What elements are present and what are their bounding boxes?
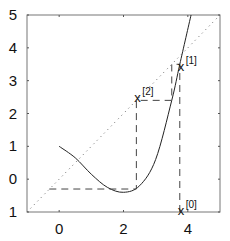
iterate-label: x[2] [134,86,153,105]
iterate-label: x[0] [178,199,197,218]
svg-text:x: x [134,90,141,105]
x-tick-label: 4 [184,220,192,237]
y-tick-label: 0 [9,170,17,187]
x-tick-label: 2 [119,220,127,237]
svg-text:[1]: [1] [186,55,197,66]
point-annotations: x[0]x[1]x[2] [134,55,197,218]
svg-text:[0]: [0] [186,199,197,210]
identity-line [27,15,220,212]
axis-ticks [27,15,220,212]
y-tick-label: 1 [9,137,17,154]
cobweb-plot: 024 1012345 x[0]x[1]x[2] [0,0,230,241]
y-tick-label: 5 [9,6,17,23]
cobweb-path [48,64,180,212]
svg-text:[2]: [2] [142,86,153,97]
x-tick-labels: 024 [55,220,192,237]
y-tick-label: 4 [9,39,17,56]
plot-area-border [27,15,220,212]
y-tick-label: 2 [9,105,17,122]
y-tick-label: 3 [9,72,17,89]
y-tick-labels: 1012345 [9,6,17,220]
y-tick-label: 1 [9,203,17,220]
axes-frame [27,15,220,212]
plot-series [27,15,220,212]
iterate-label: x[1] [178,55,197,74]
svg-text:x: x [178,203,185,218]
x-tick-label: 0 [55,220,63,237]
svg-text:x: x [178,59,185,74]
function-curve [59,15,191,192]
